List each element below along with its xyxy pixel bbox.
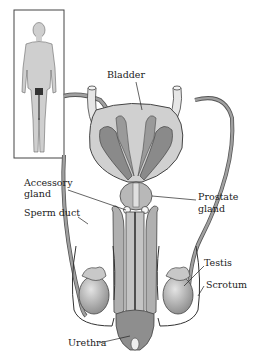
label-sperm-duct: Sperm duct	[24, 208, 80, 218]
label-prostate-line2: gland	[198, 204, 225, 214]
label-bladder: Bladder	[107, 70, 145, 80]
label-prostate-line1: Prostate	[198, 192, 238, 202]
label-scrotum: Scrotum	[206, 280, 247, 290]
bladder	[90, 103, 183, 182]
label-accessory-gland-line2: gland	[24, 189, 51, 199]
label-testis: Testis	[204, 258, 232, 268]
prostate-gland	[120, 182, 152, 210]
diagram-canvas: Bladder Accessory gland Sperm duct Prost…	[0, 0, 257, 362]
inset-body-figure	[14, 10, 64, 158]
penis	[112, 206, 158, 350]
label-accessory-gland-line1: Accessory	[24, 178, 73, 188]
label-urethra: Urethra	[68, 338, 106, 348]
